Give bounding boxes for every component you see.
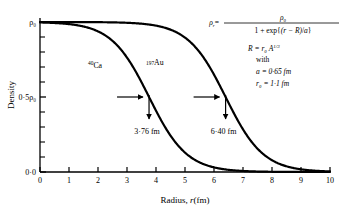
- equation-with: with: [256, 55, 270, 64]
- x-tick-label: 4: [154, 176, 158, 185]
- equation-r0-value: r₀ = 1·1 fm: [256, 79, 290, 88]
- x-tick-label: 0: [38, 176, 42, 185]
- x-tick-label: 6: [212, 176, 216, 185]
- x-title-prefix: Radius,: [160, 195, 190, 205]
- x-tick-label: 2: [96, 176, 100, 185]
- x-axis-title: Radius, r(fm): [160, 195, 209, 205]
- x-tick-label: 5: [183, 176, 187, 185]
- equation-numerator: ρ₀: [279, 13, 287, 22]
- y-tick-label: 0·0: [25, 168, 36, 177]
- y-tick-label: 0·5ρ₀: [19, 93, 37, 102]
- ca-symbol: Ca: [93, 61, 102, 70]
- au-symbol-text: Au: [154, 58, 164, 67]
- x-tick-label: 1: [67, 176, 71, 185]
- equation-denominator: 1 + exp{(r − R)/a}: [255, 26, 312, 35]
- x-title-unit: (fm): [194, 195, 210, 205]
- x-tick-label: 8: [270, 176, 274, 185]
- y-tick-label: ρ₀: [29, 18, 36, 27]
- y-axis-title: Density: [6, 81, 16, 109]
- curve-label-au: 197Au: [146, 58, 164, 67]
- x-tick-label: 10: [326, 176, 334, 185]
- x-tick-label: 9: [299, 176, 303, 185]
- x-tick-label: 7: [241, 176, 245, 185]
- x-tick-label: 3: [125, 176, 129, 185]
- nuclear-density-chart: 012345678910 0·00·5ρ₀ρ₀ 3·76 fm 6·40 fm …: [0, 0, 341, 209]
- equation-a-value: a = 0·65 fm: [256, 67, 292, 76]
- au-half-density-value: 6·40 fm: [211, 127, 237, 136]
- ca-half-density-value: 3·76 fm: [134, 127, 160, 136]
